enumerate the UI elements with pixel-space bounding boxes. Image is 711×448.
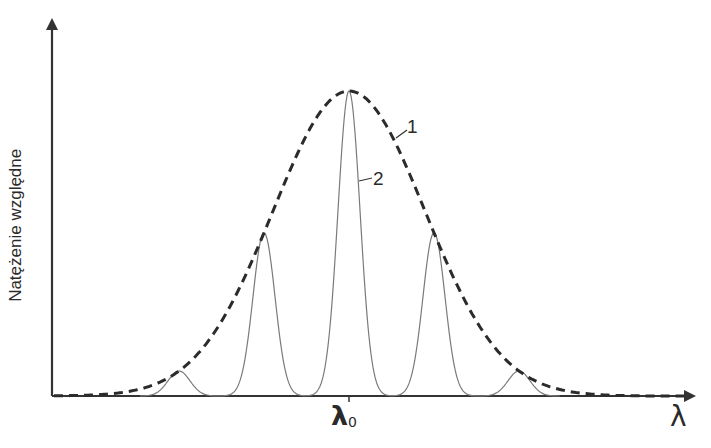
series-1-envelope xyxy=(54,91,690,396)
y-axis-arrow-icon xyxy=(46,18,58,30)
leader-line-2 xyxy=(359,178,372,181)
curve-label-2: 2 xyxy=(373,168,384,190)
axes xyxy=(46,18,696,402)
chart-canvas xyxy=(0,0,711,448)
tick-sub: 0 xyxy=(348,414,357,430)
curve-label-1: 1 xyxy=(407,116,418,138)
x-tick-label-lambda0: λ0 xyxy=(331,400,357,431)
y-axis-label: Natężenie względne xyxy=(6,149,26,302)
tick-main: λ xyxy=(331,400,348,431)
x-axis-label: λ xyxy=(670,400,687,433)
leader-line-1 xyxy=(396,130,407,138)
